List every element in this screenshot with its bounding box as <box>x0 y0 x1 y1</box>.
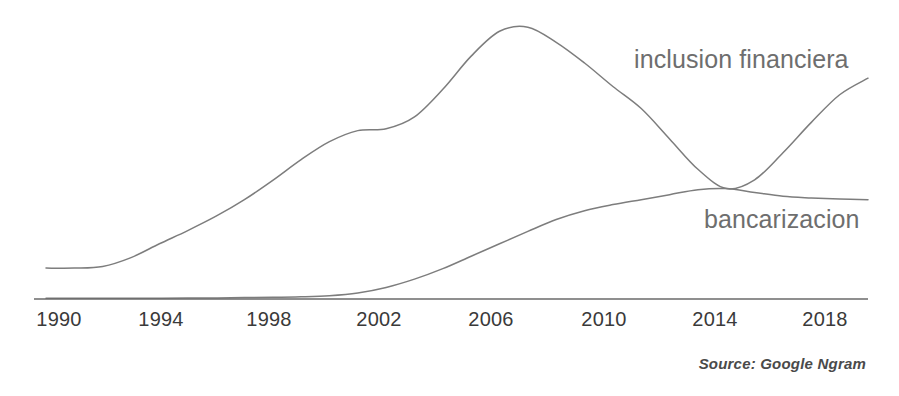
x-tick-1994: 1994 <box>138 308 183 331</box>
series-label-inclusion-financiera: inclusion financiera <box>634 45 849 74</box>
ngram-chart: 1990 1994 1998 2002 2006 2010 2014 2018 … <box>0 0 899 396</box>
x-tick-1990: 1990 <box>36 308 81 331</box>
x-tick-2018: 2018 <box>802 308 847 331</box>
x-tick-2010: 2010 <box>581 308 626 331</box>
x-tick-2014: 2014 <box>692 308 737 331</box>
x-tick-2002: 2002 <box>356 308 401 331</box>
x-tick-2006: 2006 <box>468 308 513 331</box>
series-label-bancarizacion: bancarizacion <box>704 205 860 234</box>
x-tick-1998: 1998 <box>246 308 291 331</box>
source-note: Source: Google Ngram <box>699 355 866 372</box>
